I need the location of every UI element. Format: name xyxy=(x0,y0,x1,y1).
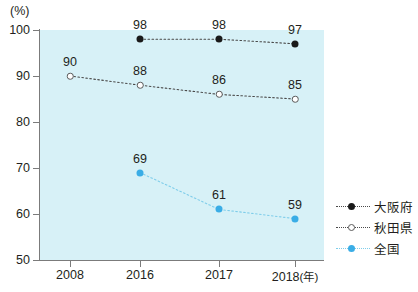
data-point-osaka-2016 xyxy=(137,36,144,43)
y-tick-60 xyxy=(33,214,39,215)
data-label-national-2017: 61 xyxy=(212,188,226,202)
data-label-national-2016: 69 xyxy=(133,152,147,166)
data-label-osaka-2018: 97 xyxy=(288,23,302,37)
x-tick-label-2017: 2017 xyxy=(205,268,233,282)
legend-marker-hollow-circle-icon xyxy=(336,223,370,232)
data-label-osaka-2016: 98 xyxy=(133,18,147,32)
x-tick-2017 xyxy=(219,261,220,267)
plot-area xyxy=(40,30,324,260)
x-tick-label-2018: 2018(年) xyxy=(272,268,318,284)
data-point-akita-2017 xyxy=(216,91,223,98)
x-tick-2018 xyxy=(295,261,296,267)
x-axis-unit-label: (年) xyxy=(300,271,319,283)
legend-marker-filled-circle-blue-icon xyxy=(336,244,370,253)
data-point-akita-2018 xyxy=(292,96,299,103)
data-point-osaka-2018 xyxy=(292,40,299,47)
legend-item-national[interactable]: 全国 xyxy=(336,238,418,259)
y-tick-90 xyxy=(33,76,39,77)
x-tick-label-2016: 2016 xyxy=(126,268,154,282)
x-axis-line xyxy=(39,260,324,261)
y-tick-100 xyxy=(33,30,39,31)
legend-item-akita[interactable]: 秋田県 xyxy=(336,217,418,238)
legend-label-osaka: 大阪府 xyxy=(374,197,413,216)
y-tick-label-80: 80 xyxy=(0,115,30,129)
x-tick-2016 xyxy=(140,261,141,267)
data-label-akita-2017: 86 xyxy=(212,73,226,87)
legend-label-akita: 秋田県 xyxy=(374,218,413,237)
x-tick-label-2018-value: 2018 xyxy=(272,270,300,284)
legend-item-osaka[interactable]: 大阪府 xyxy=(336,196,418,217)
y-tick-label-100: 100 xyxy=(0,23,30,37)
y-tick-label-50: 50 xyxy=(0,253,30,267)
y-axis-unit-label: (%) xyxy=(10,4,29,18)
data-label-akita-2016: 88 xyxy=(133,64,147,78)
data-label-osaka-2017: 98 xyxy=(212,18,226,32)
y-tick-80 xyxy=(33,122,39,123)
data-point-national-2018 xyxy=(292,215,299,222)
x-tick-2008 xyxy=(70,261,71,267)
y-tick-50 xyxy=(33,260,39,261)
data-point-national-2017 xyxy=(216,206,223,213)
legend-label-national: 全国 xyxy=(374,239,400,258)
x-tick-label-2008: 2008 xyxy=(56,268,84,282)
data-point-akita-2008 xyxy=(67,73,74,80)
y-tick-label-70: 70 xyxy=(0,161,30,175)
y-tick-70 xyxy=(33,168,39,169)
chart-figure: (%) 100 90 80 70 60 50 2008 2016 2017 20… xyxy=(0,0,418,292)
y-axis-line xyxy=(39,29,40,261)
legend-marker-filled-circle-black-icon xyxy=(336,202,370,211)
data-label-akita-2008: 90 xyxy=(63,55,77,69)
data-label-national-2018: 59 xyxy=(288,198,302,212)
data-point-akita-2016 xyxy=(137,82,144,89)
data-point-national-2016 xyxy=(137,169,144,176)
chart-legend: 大阪府 秋田県 全国 xyxy=(336,196,418,259)
y-tick-label-90: 90 xyxy=(0,69,30,83)
y-tick-label-60: 60 xyxy=(0,207,30,221)
data-point-osaka-2017 xyxy=(216,36,223,43)
data-label-akita-2018: 85 xyxy=(288,78,302,92)
